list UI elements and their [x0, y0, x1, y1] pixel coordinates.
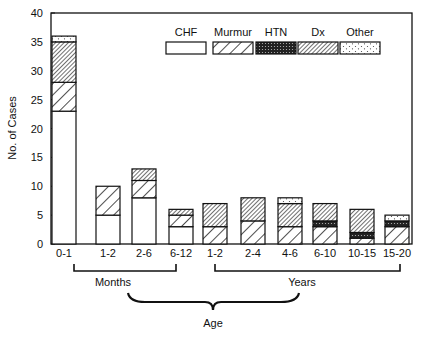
y-tick-label: 30	[31, 65, 43, 77]
segment-other	[385, 215, 409, 221]
segment-dx	[313, 204, 337, 221]
x-tick-label: 4-6	[282, 247, 298, 259]
y-tick-label: 15	[31, 151, 43, 163]
bar-10-15	[350, 209, 374, 244]
bar-4-6	[278, 198, 302, 244]
legend-swatch-chf	[166, 42, 206, 54]
segment-murmur	[169, 215, 193, 227]
x-tick-label: 0-1	[56, 247, 72, 259]
segment-murmur	[132, 180, 156, 197]
segment-other	[278, 198, 302, 204]
segment-dx	[350, 209, 374, 232]
y-tick-label: 10	[31, 180, 43, 192]
bar-6-10	[313, 204, 337, 244]
x-axis: 0-11-22-66-121-22-44-66-1010-1515-20Mont…	[56, 247, 411, 329]
segment-murmur	[241, 221, 265, 244]
x-tick-label: 1-2	[207, 247, 223, 259]
x-axis-label: Age	[203, 317, 223, 329]
x-tick-label: 6-10	[314, 247, 336, 259]
legend-label-chf: CHF	[175, 26, 198, 38]
segment-htn	[313, 221, 337, 227]
legend-label-htn: HTN	[265, 26, 288, 38]
segment-dx	[278, 204, 302, 227]
x-tick-label: 2-6	[136, 247, 152, 259]
bar-6-12	[169, 209, 193, 244]
bar-2-4	[241, 198, 265, 244]
legend-swatch-htn	[256, 42, 296, 54]
segment-dx	[52, 42, 76, 82]
y-axis-label: No. of Cases	[6, 96, 18, 160]
legend-swatch-murmur	[213, 42, 253, 54]
bar-15-20	[385, 215, 409, 244]
segment-murmur	[96, 186, 120, 215]
y-tick-label: 0	[37, 238, 43, 250]
segment-chf	[132, 198, 156, 244]
legend: CHFMurmurHTNDxOther	[166, 26, 380, 54]
legend-swatch-other	[340, 42, 380, 54]
legend-swatch-dx	[298, 42, 338, 54]
y-tick-label: 40	[31, 7, 43, 19]
y-tick-label: 20	[31, 123, 43, 135]
segment-dx	[241, 198, 265, 221]
segment-murmur	[313, 227, 337, 244]
segment-htn	[350, 232, 374, 238]
y-tick-label: 5	[37, 209, 43, 221]
segment-murmur	[52, 82, 76, 111]
x-tick-label: 6-12	[170, 247, 192, 259]
x-tick-label: 2-4	[245, 247, 261, 259]
y-tick-label: 25	[31, 94, 43, 106]
segment-chf	[96, 215, 120, 244]
segment-chf	[52, 111, 76, 244]
segment-htn	[385, 221, 409, 227]
segment-dx	[132, 169, 156, 181]
group-label-years: Years	[288, 276, 316, 288]
x-tick-label: 1-2	[100, 247, 116, 259]
legend-label-murmur: Murmur	[214, 26, 252, 38]
bar-1-2	[203, 204, 227, 244]
segment-murmur	[203, 227, 227, 244]
segment-chf	[169, 227, 193, 244]
segment-dx	[169, 209, 193, 215]
y-tick-label: 35	[31, 36, 43, 48]
x-tick-label: 10-15	[348, 247, 376, 259]
group-label-months: Months	[95, 276, 132, 288]
stacked-bar-chart: 0510152025303540 0-11-22-66-121-22-44-66…	[0, 0, 422, 337]
segment-murmur	[350, 238, 374, 244]
segment-dx	[203, 204, 227, 227]
bar-1-2	[96, 186, 120, 244]
legend-label-dx: Dx	[311, 26, 325, 38]
bar-2-6	[132, 169, 156, 244]
legend-label-other: Other	[346, 26, 374, 38]
segment-murmur	[278, 227, 302, 244]
x-tick-label: 15-20	[383, 247, 411, 259]
segment-other	[52, 36, 76, 42]
segment-murmur	[385, 227, 409, 244]
bar-0-1	[52, 36, 76, 244]
